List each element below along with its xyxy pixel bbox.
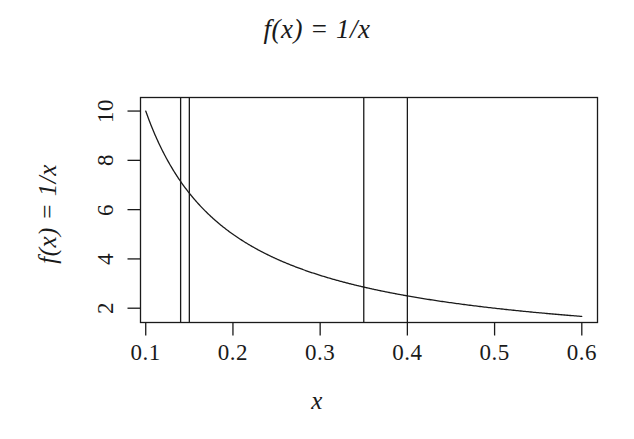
- plot-area: [0, 0, 634, 439]
- chart-figure: f(x) = 1/x f(x) = 1/x x 0.10.20.30.40.50…: [0, 0, 634, 439]
- y-tick-marks: [128, 111, 141, 308]
- x-tick-marks: [146, 323, 582, 336]
